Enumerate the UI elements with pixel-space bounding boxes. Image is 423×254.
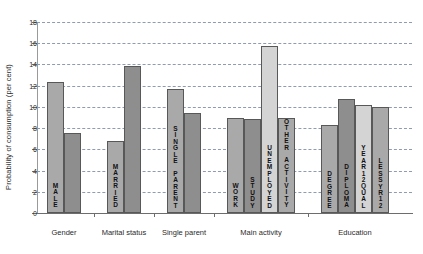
- bar: OTHER ACTIVITY: [278, 118, 295, 214]
- bar: [64, 133, 81, 213]
- gridline-12: [37, 86, 412, 87]
- gridline-16: [37, 43, 412, 44]
- bar: YEAR12QUAL: [355, 105, 372, 213]
- bar: LESSYR12: [372, 107, 389, 213]
- bar-label: YEAR12QUAL: [360, 144, 367, 208]
- bar-label: MARRIED: [112, 163, 119, 208]
- group-separator-tick: [308, 213, 309, 217]
- bar: STUDY: [244, 119, 261, 213]
- bar: [124, 66, 141, 213]
- bar: SINGLE PARENT: [167, 89, 184, 213]
- group-label-education: Education: [338, 228, 371, 237]
- bar: WORK: [227, 118, 244, 214]
- y-tick-label: 8: [9, 125, 37, 132]
- y-tick-label: 18: [9, 19, 37, 26]
- y-tick-label: 2: [9, 188, 37, 195]
- bar: DIPLOMA: [338, 99, 355, 213]
- bar-label: DIPLOMA: [343, 163, 350, 208]
- y-tick-label: 0: [9, 210, 37, 217]
- bar-label: WORK: [232, 182, 239, 208]
- bar-label: UNEMPLOYED: [266, 144, 273, 208]
- y-tick-label: 10: [9, 103, 37, 110]
- chart-container: Probability of consumption (per cent) 02…: [0, 0, 423, 254]
- gridline-14: [37, 64, 412, 65]
- y-tick-label: 14: [9, 61, 37, 68]
- bar: DEGREE: [321, 125, 338, 213]
- group-separator-tick: [154, 213, 155, 217]
- group-label-marital-status: Marital status: [102, 228, 147, 237]
- y-tick-label: 6: [9, 146, 37, 153]
- y-tick-label: 12: [9, 82, 37, 89]
- group-separator-tick: [214, 213, 215, 217]
- bar: [184, 113, 201, 213]
- bar-label: LESSYR12: [377, 157, 384, 208]
- y-tick-label: 16: [9, 40, 37, 47]
- group-separator-tick: [94, 213, 95, 217]
- bar-label: STUDY: [249, 176, 256, 208]
- y-tick-label: 4: [9, 167, 37, 174]
- bar: MALE: [47, 82, 64, 213]
- group-label-single-parent: Single parent: [162, 228, 206, 237]
- group-label-main-activity: Main activity: [240, 228, 281, 237]
- bar: MARRIED: [107, 141, 124, 213]
- bar-label: MALE: [52, 182, 59, 208]
- bar-label: OTHER ACTIVITY: [283, 118, 290, 208]
- plot-area: MALEMARRIEDSINGLE PARENTWORKSTUDYUNEMPLO…: [37, 22, 412, 213]
- bar-label: DEGREE: [326, 170, 333, 208]
- gridline-18: [37, 22, 412, 23]
- bar-label: SINGLE PARENT: [172, 125, 179, 208]
- bar: UNEMPLOYED: [261, 46, 278, 213]
- group-label-gender: Gender: [51, 228, 76, 237]
